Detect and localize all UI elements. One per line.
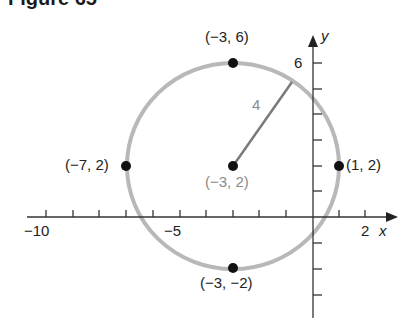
label-radius: 4 [252,96,260,113]
radius-line [233,82,292,166]
y-axis-arrow-icon [308,35,318,47]
point-center [228,161,238,171]
label-center-point: (−3, 2) [205,173,249,190]
label-right-point: (1, 2) [346,156,381,173]
x-axis [27,210,390,217]
x-axis-arrow-icon [386,212,398,222]
y-axis-label: y [321,27,329,44]
label-left-point: (−7, 2) [65,156,109,173]
x-tick-label-neg10: −10 [24,222,49,239]
label-top-point: (−3, 6) [205,28,249,45]
point-top [228,58,238,68]
y-axis [313,45,322,318]
x-tick-label-2: 2 [361,222,369,239]
x-axis-label: x [379,222,387,239]
label-bottom-point: (−3, −2) [200,274,253,291]
point-right [334,161,344,171]
x-tick-label-neg5: −5 [164,222,181,239]
point-bottom [228,263,238,273]
point-left [121,161,131,171]
y-tick-label-6: 6 [294,54,302,71]
